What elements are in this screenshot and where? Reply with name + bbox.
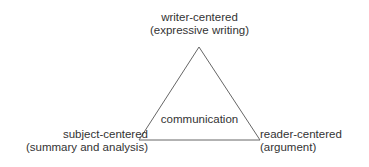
reader-centered-label: reader-centered (argument): [260, 128, 342, 154]
subject-centered-title: subject-centered: [26, 128, 148, 141]
communication-label: communication: [0, 113, 369, 126]
communication-triangle: [139, 47, 260, 140]
writer-centered-label: writer-centered (expressive writing): [0, 11, 369, 37]
writer-centered-title: writer-centered: [0, 11, 369, 24]
subject-centered-label: subject-centered (summary and analysis): [26, 128, 148, 154]
reader-centered-subtitle: (argument): [260, 141, 342, 154]
reader-centered-title: reader-centered: [260, 128, 342, 141]
writer-centered-subtitle: (expressive writing): [0, 24, 369, 37]
subject-centered-subtitle: (summary and analysis): [26, 141, 148, 154]
